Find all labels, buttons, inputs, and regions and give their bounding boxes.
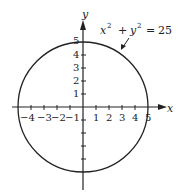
x-tick-label: 1: [93, 112, 99, 123]
x-tick-label: −2: [51, 112, 66, 123]
x-axis-label: x: [167, 102, 174, 115]
x-tick-label: 4: [132, 112, 138, 123]
y-tick-label: 1: [73, 88, 79, 99]
y-axis-label: y: [81, 8, 89, 21]
x-tick-label: 2: [106, 112, 112, 123]
x-tick-label: −4: [20, 112, 35, 123]
x-tick-label: 3: [119, 112, 125, 123]
x-axis-arrow-icon: [158, 104, 167, 110]
circle-diagram: −4 −3 −2 −1 1 2 3 4 5 1 2 3 4 5 x y x 2 …: [0, 0, 183, 193]
x-tick-label: −1: [65, 112, 80, 123]
svg-text:x: x: [100, 24, 107, 37]
equation-label: x 2 + y 2 = 25: [100, 22, 172, 37]
x-tick-label: 5: [145, 112, 151, 123]
y-axis-arrow-icon: [80, 20, 86, 30]
svg-text:25: 25: [158, 24, 172, 37]
y-tick-label: 2: [73, 75, 79, 86]
svg-text:=: =: [146, 24, 155, 37]
y-tick-label: 3: [73, 62, 79, 73]
y-tick-label: 4: [73, 49, 79, 60]
pointer-arrow-icon: [121, 44, 126, 50]
x-tick-label: −3: [37, 112, 52, 123]
svg-text:2: 2: [137, 22, 141, 30]
svg-text:+: +: [118, 24, 127, 37]
y-tick-label: 5: [73, 35, 79, 46]
svg-text:2: 2: [107, 22, 111, 30]
svg-text:y: y: [129, 24, 137, 37]
